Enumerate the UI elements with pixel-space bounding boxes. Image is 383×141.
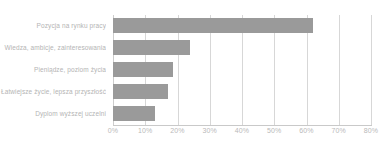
category-axis-labels: Pozycja na rynku pracyWiedza, ambicje, z… <box>0 15 110 125</box>
x-tick-label: 10% <box>130 127 160 134</box>
bar-row <box>113 103 371 125</box>
bar[interactable] <box>113 62 173 77</box>
chart-title <box>0 0 376 8</box>
bar[interactable] <box>113 84 168 99</box>
bar-row <box>113 37 371 59</box>
x-tick-label: 40% <box>227 127 257 134</box>
x-axis-line <box>113 125 372 126</box>
bar[interactable] <box>113 106 155 121</box>
bar[interactable] <box>113 40 190 55</box>
bar-row <box>113 81 371 103</box>
plot-area <box>113 15 371 125</box>
x-tick-label: 60% <box>292 127 322 134</box>
category-label: Łatwiejsze życie, lepsza przyszłość <box>0 81 106 103</box>
category-label: Pozycja na rynku pracy <box>0 15 106 37</box>
bar-series <box>113 15 371 125</box>
x-tick-label: 50% <box>259 127 289 134</box>
category-label: Dyplom wyższej uczelni <box>0 103 106 125</box>
x-tick-label: 20% <box>163 127 193 134</box>
x-tick-label: 30% <box>195 127 225 134</box>
x-tick-label: 80% <box>356 127 383 134</box>
bar-row <box>113 59 371 81</box>
category-label: Wiedza, ambicje, zainteresowania <box>0 37 106 59</box>
x-tick-label: 0% <box>98 127 128 134</box>
bar[interactable] <box>113 18 313 33</box>
x-tick-label: 70% <box>324 127 354 134</box>
category-label: Pieniądze, poziom życia <box>0 59 106 81</box>
gridline-80 <box>371 15 372 125</box>
bar-row <box>113 15 371 37</box>
x-tick-labels: 0%10%20%30%40%50%60%70%80% <box>0 127 376 141</box>
